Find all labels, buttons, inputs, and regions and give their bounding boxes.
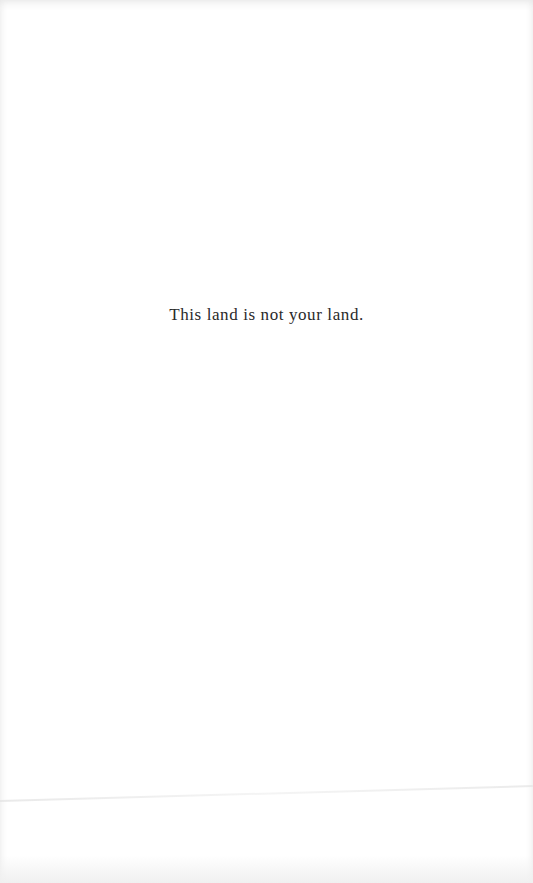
epigraph-text: This land is not your land. [0,305,533,325]
book-page: This land is not your land. [0,0,533,883]
page-crease [0,785,533,802]
page-bottom-edge [0,855,533,883]
